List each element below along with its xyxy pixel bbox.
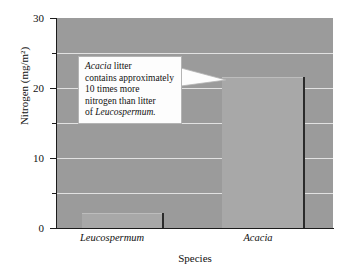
callout-line-2: contains approximately (85, 73, 176, 85)
x-category-label-leucospermum: Leucospermum (62, 232, 162, 243)
y-tick-label-0: 0 (10, 223, 44, 234)
y-axis-title: Nitrogen (mg/m²) (18, 16, 30, 156)
x-category-label-acacia: Acacia (213, 232, 303, 243)
callout-line-3: 10 times more (85, 84, 176, 96)
x-axis-title: Species (57, 252, 333, 264)
bar-leucospermum[interactable] (82, 213, 164, 228)
callout-line-1: Acacia litter (85, 61, 176, 73)
bar-acacia[interactable] (222, 77, 305, 228)
y-tick-5 (52, 193, 57, 194)
callout-line-1-species: Acacia (85, 61, 111, 71)
callout-line-1-rest: litter (111, 61, 131, 71)
y-tick-25 (52, 53, 57, 54)
callout-line-5-species: Leucospermum. (95, 107, 155, 117)
gridline-25 (57, 53, 333, 54)
callout-line-5: of Leucospermum. (85, 107, 176, 119)
y-tick-15 (52, 123, 57, 124)
acacia-callout: Acacia litter contains approximately 10 … (78, 56, 182, 124)
y-tick-20 (50, 88, 57, 89)
y-tick-10 (50, 158, 57, 159)
callout-line-4: nitrogen than litter (85, 96, 176, 108)
callout-line-5-prefix: of (85, 107, 95, 117)
y-tick-30 (50, 18, 57, 19)
x-axis-line (56, 228, 334, 229)
y-tick-0 (50, 228, 57, 229)
nitrogen-by-species-bar-chart: 30 20 10 0 Nitrogen (mg/m²) Species Leuc… (0, 0, 347, 277)
